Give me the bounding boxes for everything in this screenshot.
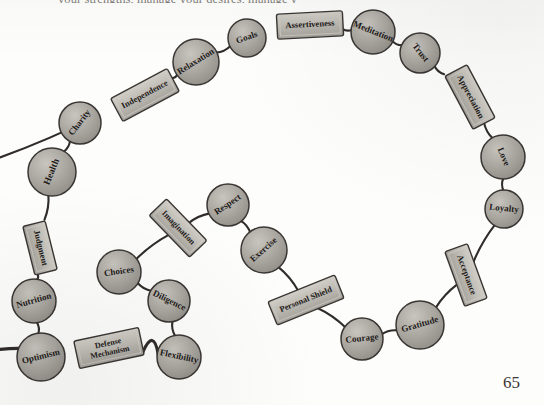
chain-link — [436, 284, 458, 308]
chain-link — [502, 178, 504, 191]
chain-link — [137, 283, 152, 291]
chain-link — [44, 195, 48, 220]
node-assertiveness[interactable]: Assertiveness — [276, 11, 343, 39]
node-independence[interactable]: Independence — [111, 68, 180, 121]
chain-link — [434, 66, 444, 75]
node-judgment[interactable]: Judgment — [23, 221, 57, 275]
node-respect[interactable]: Respect — [207, 184, 249, 226]
node-acceptance[interactable]: Acceptance — [445, 244, 487, 307]
node-goals[interactable]: Goals — [228, 19, 266, 57]
chain-link — [240, 221, 250, 233]
chain-link — [216, 46, 231, 53]
chain-link — [143, 340, 158, 354]
node-exercise[interactable]: Exercise — [241, 227, 287, 273]
node-choices[interactable]: Choices — [97, 250, 141, 294]
node-meditation[interactable]: Meditation — [351, 10, 395, 54]
node-relaxation[interactable]: Relaxation — [173, 39, 219, 85]
chain-link — [37, 322, 39, 334]
node-courage[interactable]: Courage — [341, 318, 383, 360]
chain-link — [484, 122, 493, 138]
chain-link — [317, 308, 345, 328]
node-flexibility[interactable]: Flexibility — [157, 335, 201, 379]
scanned-book-page: your strengths, manage your desires, man… — [0, 0, 544, 405]
node-optimism[interactable]: Optimism — [17, 333, 65, 381]
chain-link — [473, 225, 495, 263]
chain-link — [278, 267, 298, 291]
chain-link — [172, 321, 175, 337]
chain-diagram: HealthCharityIndependenceRelaxationGoals… — [0, 0, 544, 405]
chain-link — [136, 235, 169, 260]
node-nutrition[interactable]: Nutrition — [12, 279, 56, 323]
node-imagination[interactable]: Imagination — [149, 199, 207, 257]
node-layer: HealthCharityIndependenceRelaxationGoals… — [12, 10, 525, 381]
node-gratitude[interactable]: Gratitude — [396, 301, 444, 349]
chain-link — [189, 213, 210, 223]
node-appreciation[interactable]: Appreciation — [445, 65, 495, 130]
page-number: 65 — [503, 373, 520, 393]
node-trust[interactable]: Trust — [400, 33, 440, 73]
chain-link — [63, 140, 70, 152]
node-defense-mechanism[interactable]: DefenseMechanism — [74, 327, 144, 368]
node-loyalty[interactable]: Loyalty — [485, 190, 523, 228]
node-charity[interactable]: Charity — [59, 102, 101, 144]
node-love[interactable]: Love — [481, 135, 525, 179]
node-health[interactable]: Health — [28, 148, 76, 196]
node-diligence[interactable]: Diligence — [148, 280, 190, 322]
chain-link — [381, 330, 397, 334]
